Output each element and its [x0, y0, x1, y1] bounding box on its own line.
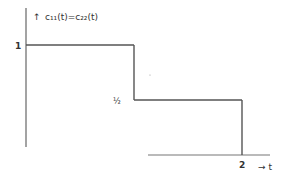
x-axis-label: → t: [258, 162, 272, 172]
y-tick-label-1: 1: [15, 41, 21, 51]
x-tick-label-2: 2: [239, 160, 245, 170]
chart: ↑ c₁₁(t)=c₂₂(t) 1 ½ 2 → t: [0, 0, 286, 179]
speck-dot: [149, 74, 150, 75]
y-arrow-marker: ↑: [33, 12, 41, 22]
y-tick-label-half: ½: [113, 97, 121, 106]
step-series: [26, 45, 242, 155]
chart-title: c₁₁(t)=c₂₂(t): [45, 12, 98, 22]
